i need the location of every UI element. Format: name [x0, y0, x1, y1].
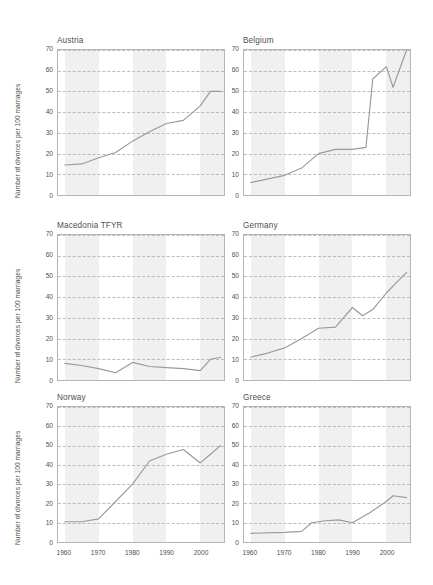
- plot-area-macedonia-tfyr: [57, 234, 225, 381]
- plot-area-norway: [57, 406, 225, 543]
- x-tick-label: 2000: [373, 549, 401, 556]
- y-tick-label: 50: [31, 272, 53, 279]
- panel-title-greece: Greece: [243, 393, 271, 402]
- y-tick-label: 30: [217, 314, 239, 321]
- y-tick-label: 50: [31, 87, 53, 94]
- y-tick-label: 30: [31, 129, 53, 136]
- y-tick-label: 70: [31, 45, 53, 52]
- y-tick-label: 0: [31, 539, 53, 546]
- panel-title-austria: Austria: [57, 36, 84, 45]
- y-tick-label: 40: [31, 108, 53, 115]
- y-tick-label: 40: [31, 293, 53, 300]
- y-tick-label: 70: [31, 402, 53, 409]
- y-tick-label: 20: [31, 335, 53, 342]
- y-tick-label: 50: [31, 441, 53, 448]
- y-tick-label: 40: [31, 461, 53, 468]
- y-tick-label: 70: [217, 45, 239, 52]
- panel-title-belgium: Belgium: [243, 36, 274, 45]
- x-tick-label: 1990: [153, 549, 181, 556]
- figure-root: AustriaNumber of divorces per 100 marria…: [0, 0, 433, 585]
- y-tick-label: 10: [31, 519, 53, 526]
- plot-area-greece: [243, 406, 411, 543]
- series-line-macedonia-tfyr: [58, 235, 224, 380]
- x-tick-label: 1970: [270, 549, 298, 556]
- y-tick-label: 20: [31, 150, 53, 157]
- y-tick-label: 30: [217, 129, 239, 136]
- y-tick-label: 40: [217, 108, 239, 115]
- y-tick-label: 30: [217, 480, 239, 487]
- y-tick-label: 10: [217, 356, 239, 363]
- y-tick-label: 10: [217, 519, 239, 526]
- y-tick-label: 50: [217, 87, 239, 94]
- series-line-austria: [58, 50, 224, 195]
- y-tick-label: 10: [31, 171, 53, 178]
- y-tick-label: 0: [31, 377, 53, 384]
- series-line-norway: [58, 407, 224, 542]
- y-tick-label: 30: [31, 314, 53, 321]
- y-tick-label: 70: [31, 230, 53, 237]
- y-axis-label-austria: Number of divorces per 100 marriages: [14, 84, 21, 198]
- series-line-germany: [244, 235, 410, 380]
- y-tick-label: 70: [217, 402, 239, 409]
- y-tick-label: 30: [31, 480, 53, 487]
- y-tick-label: 60: [217, 251, 239, 258]
- y-tick-label: 0: [31, 192, 53, 199]
- series-line-belgium: [244, 50, 410, 195]
- y-tick-label: 10: [31, 356, 53, 363]
- x-tick-label: 1970: [84, 549, 112, 556]
- panel-title-norway: Norway: [57, 393, 86, 402]
- panel-title-macedonia-tfyr: Macedonia TFYR: [57, 221, 123, 230]
- y-tick-label: 0: [217, 539, 239, 546]
- y-tick-label: 20: [217, 335, 239, 342]
- y-tick-label: 70: [217, 230, 239, 237]
- y-tick-label: 0: [217, 377, 239, 384]
- x-tick-label: 1980: [118, 549, 146, 556]
- y-tick-label: 60: [31, 251, 53, 258]
- y-tick-label: 50: [217, 272, 239, 279]
- y-tick-label: 0: [217, 192, 239, 199]
- plot-area-austria: [57, 49, 225, 196]
- y-tick-label: 40: [217, 461, 239, 468]
- x-tick-label: 1960: [50, 549, 78, 556]
- panel-title-germany: Germany: [243, 221, 278, 230]
- x-tick-label: 1980: [304, 549, 332, 556]
- y-tick-label: 60: [31, 422, 53, 429]
- x-tick-label: 1960: [236, 549, 264, 556]
- plot-area-belgium: [243, 49, 411, 196]
- series-line-greece: [244, 407, 410, 542]
- x-tick-label: 1990: [339, 549, 367, 556]
- y-axis-label-norway: Number of divorces per 100 marriages: [14, 431, 21, 545]
- y-tick-label: 20: [31, 500, 53, 507]
- y-tick-label: 60: [217, 422, 239, 429]
- y-tick-label: 40: [217, 293, 239, 300]
- x-tick-label: 2000: [187, 549, 215, 556]
- y-axis-label-macedonia-tfyr: Number of divorces per 100 marriages: [14, 269, 21, 383]
- y-tick-label: 20: [217, 150, 239, 157]
- y-tick-label: 20: [217, 500, 239, 507]
- y-tick-label: 50: [217, 441, 239, 448]
- y-tick-label: 10: [217, 171, 239, 178]
- y-tick-label: 60: [217, 66, 239, 73]
- y-tick-label: 60: [31, 66, 53, 73]
- plot-area-germany: [243, 234, 411, 381]
